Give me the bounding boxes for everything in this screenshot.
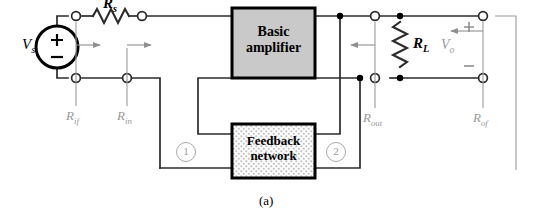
figure-caption: (a) [259, 193, 273, 209]
junction-dots [337, 13, 403, 81]
circuit-diagram-figure: Vs Rs RL Vo Rif Rin Rout Rof Basic ampli… [0, 0, 540, 222]
feedback-network-label-line1: Feedback [247, 133, 300, 148]
junction-dot-rl-top [397, 13, 403, 19]
r-if-label: Rif [66, 109, 79, 125]
output-polarity-symbols [464, 22, 474, 66]
wire-input-bottom-down [132, 78, 160, 168]
basic-amplifier-label: Basic amplifier [232, 24, 315, 55]
source-label: Vs [22, 37, 35, 55]
terminal-rout-top [371, 12, 380, 21]
basic-amplifier-label-line2: amplifier [246, 40, 301, 55]
wire-out-top-to-fb-right-top [315, 16, 340, 134]
terminal-rs-left [72, 12, 81, 21]
feedback-network-label: Feedback network [230, 134, 317, 163]
wire-source-bottom [57, 68, 68, 78]
outer-loop-right [495, 16, 516, 170]
voltage-source-symbol [36, 26, 78, 68]
wire-amp-neg-to-fb-top [198, 78, 232, 134]
terminal-output-top [479, 12, 488, 21]
junction-dot-amp-bottom [357, 75, 363, 81]
feedback-network-label-line2: network [250, 148, 296, 163]
r-of-label: Rof [473, 111, 488, 127]
terminal-rs-right [138, 12, 147, 21]
basic-amplifier-label-line1: Basic [258, 24, 290, 39]
junction-dot-amp-top [337, 13, 343, 19]
output-voltage-label: Vo [441, 38, 454, 55]
port-marker-1: 1 [176, 142, 196, 162]
r-out-label: Rout [363, 111, 382, 127]
resistor-rl-label: RL [413, 36, 429, 54]
port-marker-2: 2 [326, 142, 346, 162]
junction-dot-rl-bottom [397, 75, 403, 81]
resistor-rs-label: Rs [103, 0, 117, 14]
r-in-label: Rin [117, 109, 132, 125]
resistor-rl-zigzag [393, 22, 407, 67]
wire-source-top [57, 16, 68, 26]
